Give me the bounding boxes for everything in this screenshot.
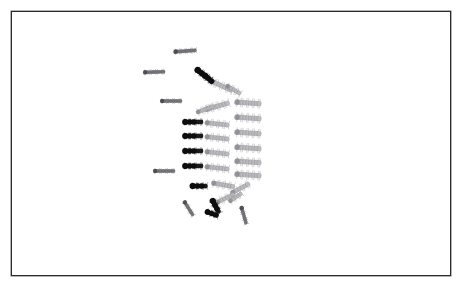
specimen-light [204,147,230,158]
specimen-light [234,127,262,138]
specimen-light [204,132,230,143]
specimen-mid [153,168,176,174]
specimen-dark [182,118,203,125]
specimen-light [234,112,262,123]
specimen-mid [181,199,195,218]
specimen-light [234,169,262,180]
specimen-dark [190,182,208,190]
specimen-dark [182,132,203,139]
specimen-light [234,97,262,108]
specimen-dark [182,147,203,154]
specimen-light [210,178,235,191]
specimen-canvas [0,0,461,290]
specimen-light [234,156,262,167]
specimen-light [204,162,230,173]
specimen-light [234,142,262,153]
specimen-mid [173,47,197,55]
specimen-plate [0,0,461,290]
specimen-mid [238,205,249,225]
specimen-mid [143,69,166,76]
specimen-layer [143,47,262,225]
specimen-dark [182,162,203,169]
specimen-light [204,118,230,129]
specimen-mid [160,98,183,104]
